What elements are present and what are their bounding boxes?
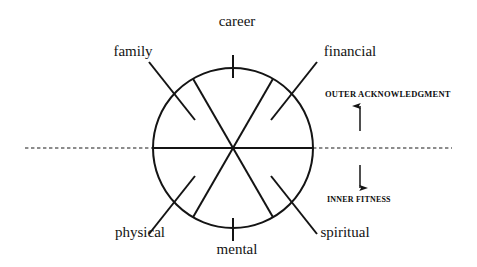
sector-label-career: career: [219, 14, 256, 29]
sector-label-family: family: [113, 44, 152, 59]
sector-label-physical: physical: [115, 225, 165, 240]
sector-label-spiritual: spiritual: [320, 225, 369, 240]
tick-spiritual: [271, 176, 317, 234]
sector-label-financial: financial: [324, 44, 376, 59]
diagram-canvas: career family financial physical mental …: [0, 0, 477, 267]
sector-label-mental: mental: [217, 242, 258, 257]
axis-label-outer-acknowledgment: OUTER ACKNOWLEDGMENT: [325, 90, 451, 99]
wheel-diagram-svg: [0, 0, 477, 267]
tick-financial: [271, 62, 317, 120]
tick-family: [149, 62, 195, 120]
axis-label-inner-fitness: INNER FITNESS: [327, 196, 391, 204]
